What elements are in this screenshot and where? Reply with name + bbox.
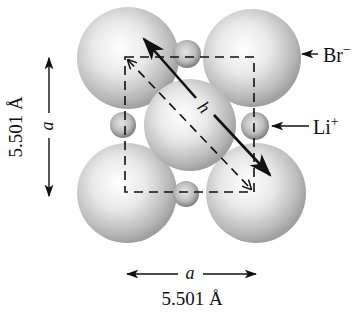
li-cation-left bbox=[110, 112, 136, 138]
li-cation-bottom bbox=[173, 181, 199, 207]
horizontal-edge-symbol: a bbox=[186, 263, 195, 283]
li-label: Li+ bbox=[313, 114, 339, 138]
li-cation-top bbox=[173, 40, 201, 68]
vertical-dimension-value: 5.501 Å bbox=[5, 96, 26, 158]
horizontal-dimension-value: 5.501 Å bbox=[161, 288, 223, 309]
vertical-edge-symbol: a bbox=[37, 122, 57, 131]
li-cation-right bbox=[241, 112, 269, 140]
br-label: Br− bbox=[323, 42, 351, 66]
libr-unit-cell-diagram: h Br− Li+ a 5.501 Å a 5.501 Å bbox=[0, 0, 361, 322]
